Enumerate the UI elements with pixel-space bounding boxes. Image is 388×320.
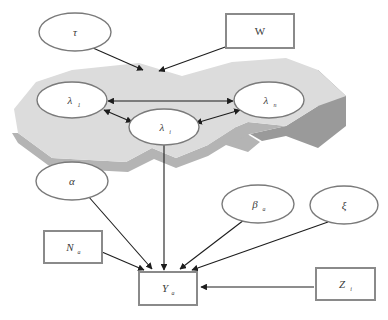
node-lambda-i-label: λ xyxy=(159,121,165,133)
edge-n-to-y xyxy=(102,252,144,270)
node-n-a[interactable]: N a xyxy=(44,231,102,263)
node-n-a-subscript: a xyxy=(78,249,81,255)
node-w[interactable]: W xyxy=(226,14,294,48)
node-lambda-1[interactable]: λ 1 xyxy=(37,82,107,118)
graphical-model-svg: τ W λ 1 λ n λ i α xyxy=(0,0,388,320)
node-beta-a[interactable]: β a xyxy=(222,185,294,223)
node-y-a[interactable]: Y a xyxy=(139,272,197,305)
node-xi[interactable]: ξ xyxy=(310,186,378,224)
node-z-i[interactable]: Z i xyxy=(316,268,375,300)
node-xi-label: ξ xyxy=(342,199,347,212)
node-lambda-1-subscript: 1 xyxy=(78,102,81,108)
node-lambda-1-label: λ xyxy=(67,94,73,106)
edge-xi-to-y xyxy=(192,222,328,270)
node-lambda-n[interactable]: λ n xyxy=(234,82,304,118)
node-lambda-n-label: λ xyxy=(263,94,269,106)
node-beta-a-subscript: a xyxy=(263,206,266,212)
node-beta-a-shape[interactable] xyxy=(222,185,294,223)
node-z-i-label: Z xyxy=(339,278,346,290)
edge-beta-to-y xyxy=(180,220,244,269)
diagram-canvas: τ W λ 1 λ n λ i α xyxy=(0,0,388,320)
node-tau[interactable]: τ xyxy=(39,13,111,51)
node-lambda-i[interactable]: λ i xyxy=(129,109,199,145)
node-lambda-n-shape[interactable] xyxy=(234,82,304,118)
node-alpha[interactable]: α xyxy=(36,162,108,200)
node-w-label: W xyxy=(255,25,266,37)
node-n-a-label: N xyxy=(65,241,74,253)
node-y-a-subscript: a xyxy=(172,290,175,296)
node-z-i-shape[interactable] xyxy=(316,268,375,300)
node-alpha-label: α xyxy=(69,175,75,187)
node-lambda-n-subscript: n xyxy=(274,102,277,108)
node-beta-a-label: β xyxy=(251,198,258,210)
